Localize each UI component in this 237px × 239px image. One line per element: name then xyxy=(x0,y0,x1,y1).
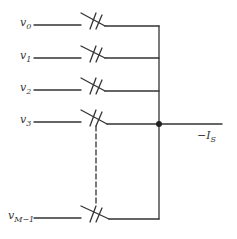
input-label-v1: v1 xyxy=(20,50,31,64)
switch-row-2 xyxy=(34,78,159,94)
switch-array-diagram: v0 v1 v2 v3 vM−1 −IS xyxy=(0,0,237,239)
input-label-v2: v2 xyxy=(20,82,31,96)
switch-row-m-1 xyxy=(34,206,159,222)
switch-row-0 xyxy=(34,13,159,29)
circuit-drawing xyxy=(0,0,237,239)
output-label: −IS xyxy=(197,130,216,144)
input-label-v0: v0 xyxy=(20,17,31,31)
switch-row-1 xyxy=(34,46,159,62)
junction-dot-icon xyxy=(156,121,162,127)
input-label-vm-1: vM−1 xyxy=(8,210,34,224)
switch-row-3 xyxy=(34,110,159,126)
input-label-v3: v3 xyxy=(20,114,31,128)
